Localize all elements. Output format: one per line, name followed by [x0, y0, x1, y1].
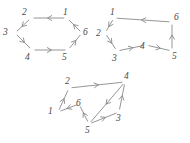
node-label-hexagon-cycle-left-5: 5 — [62, 53, 67, 63]
node-label-hexagon-cycle-left-3: 3 — [3, 28, 8, 38]
edge-3-to-4 — [17, 35, 30, 48]
node-label-hexagon-cycle-left-4: 4 — [25, 53, 30, 63]
node-label-crossed-cycle-bottom-6: 6 — [76, 99, 81, 109]
node-label-hexagon-cycle-right-1: 1 — [110, 8, 115, 18]
crossed-cycle-bottom — [59, 82, 124, 123]
edge-2-to-4 — [72, 82, 122, 87]
graph-drawing — [0, 0, 190, 143]
edge-6-to-1 — [61, 105, 76, 111]
node-label-hexagon-cycle-left-6: 6 — [83, 28, 88, 38]
edge-5-to-6 — [70, 35, 80, 47]
node-label-crossed-cycle-bottom-4: 4 — [124, 72, 129, 82]
node-label-crossed-cycle-bottom-2: 2 — [65, 77, 70, 87]
edge-3-to-4 — [120, 85, 125, 109]
node-label-hexagon-cycle-right-2: 2 — [96, 29, 101, 39]
node-label-hexagon-cycle-right-5: 5 — [172, 52, 177, 62]
node-label-hexagon-cycle-right-3: 3 — [112, 54, 117, 64]
node-label-crossed-cycle-bottom-3: 3 — [116, 114, 121, 124]
edge-5-to-6 — [80, 107, 87, 122]
node-label-crossed-cycle-bottom-1: 1 — [48, 107, 53, 117]
arrowhead-2-to-3 — [108, 38, 112, 43]
edge-5-to-3 — [92, 113, 116, 123]
node-label-hexagon-cycle-left-2: 2 — [22, 8, 27, 18]
node-label-crossed-cycle-bottom-5: 5 — [85, 126, 90, 136]
hexagon-cycle-left — [17, 16, 80, 53]
node-label-hexagon-cycle-right-4: 4 — [140, 42, 145, 52]
edge-2-to-3 — [107, 35, 116, 48]
edge-4-to-5 — [149, 46, 169, 51]
edge-1-to-2 — [59, 91, 68, 110]
figure-canvas: 123456123456123456 — [0, 0, 190, 143]
node-label-hexagon-cycle-left-1: 1 — [63, 8, 68, 18]
node-label-hexagon-cycle-right-6: 6 — [174, 13, 179, 23]
